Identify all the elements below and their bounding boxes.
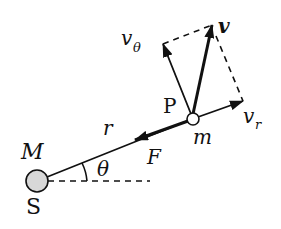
dashed-edge-v-to-vr <box>216 36 243 101</box>
svg-text:θ: θ <box>133 40 141 55</box>
tangential-velocity-label: v θ <box>121 26 141 55</box>
force-label: F <box>146 145 162 169</box>
radial-velocity-arrow <box>198 101 243 117</box>
velocity-vector-arrow <box>193 25 212 114</box>
particle-name-label: P <box>163 94 176 118</box>
central-force-diagram: M S P m r θ F v v r v θ <box>0 0 281 229</box>
svg-text:v: v <box>243 104 255 128</box>
particle-body <box>187 113 199 125</box>
sun-name-label: S <box>26 194 41 219</box>
svg-text:r: r <box>255 117 262 132</box>
sun-mass-label: M <box>20 139 44 164</box>
svg-text:v: v <box>121 26 133 50</box>
particle-mass-label: m <box>193 125 212 149</box>
angle-arc <box>82 163 87 181</box>
radial-velocity-label: v r <box>243 104 262 132</box>
sun-body <box>26 170 48 192</box>
velocity-label: v <box>218 14 230 38</box>
angle-label: θ <box>97 157 109 181</box>
radius-label: r <box>103 116 114 140</box>
dashed-edge-vtheta-to-v <box>163 25 212 44</box>
force-vector-arrow <box>135 121 188 140</box>
